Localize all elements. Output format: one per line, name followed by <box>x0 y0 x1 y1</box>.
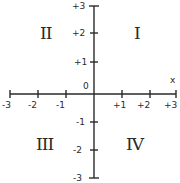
quadrant-iv-label: IV <box>126 135 143 153</box>
x-tick-label: +1 <box>113 100 126 110</box>
x-tick-label: -3 <box>2 100 11 110</box>
y-tick-label: -1 <box>76 117 85 127</box>
quadrant-iii-label: III <box>36 135 53 153</box>
y-tick-label: -2 <box>73 145 82 155</box>
x-tick-label: -1 <box>56 100 65 110</box>
y-tick-label: -3 <box>73 173 82 183</box>
x-tick-label: +2 <box>137 100 150 110</box>
coordinate-axes <box>0 0 180 183</box>
origin-label: 0 <box>83 81 89 91</box>
quadrant-i-label: I <box>134 24 140 42</box>
x-tick-label: -2 <box>28 100 37 110</box>
y-tick-label: +1 <box>74 57 87 67</box>
x-axis-label: x <box>170 75 175 85</box>
quadrant-ii-label: II <box>40 24 51 42</box>
x-tick-label: +3 <box>164 100 177 110</box>
y-tick-label: +2 <box>72 28 85 38</box>
y-tick-label: +3 <box>72 1 85 11</box>
